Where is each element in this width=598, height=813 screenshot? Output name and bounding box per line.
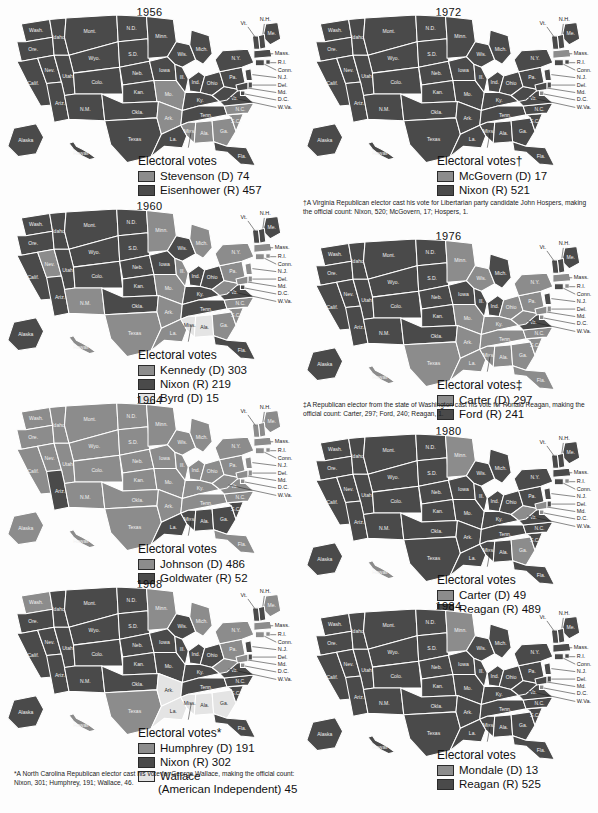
state-nd — [416, 609, 447, 636]
callout-line-nj — [252, 463, 276, 466]
left-column: 1956Wash.Ore.Calif.Nev.IdahoMont.Wyo.Uta… — [0, 0, 299, 813]
callout-label-de: Del. — [577, 306, 587, 312]
callout-label-ct: Conn. — [278, 639, 293, 645]
callout-line-md — [547, 682, 575, 686]
callout-line-vt — [547, 251, 554, 261]
legend-entry: Humphrey (D) 191 — [138, 742, 297, 755]
callout-line-vt — [248, 221, 255, 231]
callout-label-wv: W.Va. — [278, 298, 293, 304]
state-al — [194, 315, 213, 337]
state-nd — [117, 403, 148, 430]
state-vt — [551, 455, 558, 468]
callout-line-vt — [248, 27, 255, 37]
callout-label-ct: Conn. — [577, 291, 592, 297]
callout-label-ri: R.I. — [278, 447, 287, 453]
legend-swatch-dark — [138, 379, 155, 390]
state-ri — [565, 60, 569, 64]
callout-line-ct — [264, 452, 276, 458]
state-ny — [514, 468, 553, 490]
state-ny — [514, 643, 553, 665]
state-ny — [215, 243, 254, 265]
callout-label-nh: N.H. — [559, 16, 570, 22]
callout-label-dc: D.C. — [577, 96, 588, 102]
state-ri — [565, 284, 569, 288]
state-nj — [544, 663, 551, 675]
callout-label-dc: D.C. — [278, 96, 289, 102]
legend-swatch-mid — [138, 559, 155, 570]
state-nj — [544, 293, 551, 305]
callout-label-wv: W.Va. — [278, 676, 293, 682]
callout-label-ma: Mass. — [574, 469, 589, 475]
callout-label-ri: R.I. — [577, 653, 586, 659]
legend-entry: Stevenson (D) 74 — [138, 170, 262, 183]
state-ct — [255, 448, 264, 454]
state-ks — [422, 305, 456, 327]
callout-line-md — [547, 507, 575, 511]
callout-label-nh: N.H. — [260, 210, 271, 216]
callout-label-ri: R.I. — [278, 59, 287, 65]
state-nj — [544, 488, 551, 500]
callout-label-wv: W.Va. — [278, 492, 293, 498]
callout-label-wv: W.Va. — [577, 328, 592, 334]
callout-label-wv: W.Va. — [278, 104, 293, 110]
callout-line-vt — [547, 27, 554, 37]
callout-label-nj: N.J. — [278, 646, 288, 652]
callout-label-ma: Mass. — [275, 244, 290, 250]
legend-title: Electoral votes — [138, 154, 262, 168]
state-ak — [307, 718, 343, 751]
callout-line-nj — [252, 269, 276, 272]
callout-line-nj — [252, 75, 276, 78]
callout-label-ma: Mass. — [275, 438, 290, 444]
footnote-left-asterisk: *A North Carolina Republican elector cas… — [14, 770, 304, 787]
callout-label-md: Md. — [577, 313, 587, 319]
callout-line-nj — [551, 494, 575, 497]
callout-line-vt — [547, 446, 554, 456]
callout-label-nh: N.H. — [559, 240, 570, 246]
state-ri — [565, 479, 569, 483]
callout-label-ct: Conn. — [577, 661, 592, 667]
legend-swatch-dark — [138, 757, 155, 768]
state-dc — [240, 91, 244, 95]
state-ks — [123, 81, 157, 103]
callout-label-nj: N.J. — [577, 298, 587, 304]
callout-line-nj — [551, 75, 575, 78]
callout-line-md — [547, 88, 575, 92]
state-hi — [69, 336, 96, 354]
legend-swatch-mid — [138, 743, 155, 754]
callout-label-nj: N.J. — [278, 462, 288, 468]
state-ma — [553, 273, 571, 282]
callout-line-vt — [248, 599, 255, 609]
callout-label-ri: R.I. — [278, 253, 287, 259]
state-nj — [544, 69, 551, 81]
state-ak — [307, 124, 343, 157]
state-al — [194, 509, 213, 531]
right-column: 1972Wash.Ore.Calif.Nev.IdahoMont.Wyo.Uta… — [299, 0, 598, 813]
state-nm — [65, 94, 105, 121]
callout-label-vt: Vt. — [240, 408, 247, 414]
callout-label-ri: R.I. — [577, 59, 586, 65]
state-ak — [307, 348, 343, 381]
callout-label-de: Del. — [577, 82, 587, 88]
state-hi — [69, 142, 96, 160]
callout-label-ma: Mass. — [574, 644, 589, 650]
state-nm — [65, 482, 105, 509]
callout-label-ct: Conn. — [278, 261, 293, 267]
state-nm — [65, 666, 105, 693]
callout-label-md: Md. — [278, 89, 288, 95]
callout-label-ri: R.I. — [278, 631, 287, 637]
legend-swatch-dark — [437, 779, 454, 790]
callout-label-nj: N.J. — [577, 74, 587, 80]
callout-label-ct: Conn. — [577, 486, 592, 492]
callout-label-ma: Mass. — [275, 622, 290, 628]
legend-swatch-dark — [437, 185, 454, 196]
state-vt — [551, 260, 558, 273]
state-vt — [252, 230, 259, 243]
state-al — [493, 715, 512, 737]
legend-entry-label: Nixon (R) 302 — [160, 756, 231, 769]
callout-label-md: Md. — [278, 283, 288, 289]
callout-label-dc: D.C. — [278, 290, 289, 296]
callout-label-wv: W.Va. — [577, 523, 592, 529]
callout-label-vt: Vt. — [539, 20, 546, 26]
state-al — [493, 540, 512, 562]
state-ri — [266, 632, 270, 636]
